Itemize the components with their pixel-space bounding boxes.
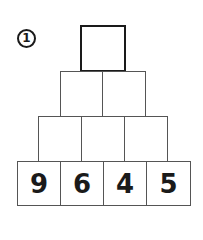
pyramid-cell[interactable] (81, 116, 125, 162)
task-number-badge: 1 (17, 29, 36, 48)
pyramid-base-cell: 5 (146, 161, 191, 206)
pyramid-top-cell[interactable] (80, 25, 126, 72)
pyramid-cell[interactable] (38, 116, 82, 162)
pyramid-base-cell: 6 (60, 161, 104, 206)
pyramid-cell[interactable] (124, 116, 168, 162)
pyramid-base-cell: 4 (103, 161, 147, 206)
pyramid-base-cell: 9 (17, 161, 61, 206)
pyramid-cell[interactable] (60, 71, 103, 117)
pyramid-cell[interactable] (102, 71, 146, 117)
